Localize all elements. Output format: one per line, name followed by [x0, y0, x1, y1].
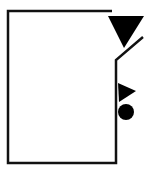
- filled-circle-icon: [118, 104, 134, 120]
- schematic-diagram: [0, 0, 153, 173]
